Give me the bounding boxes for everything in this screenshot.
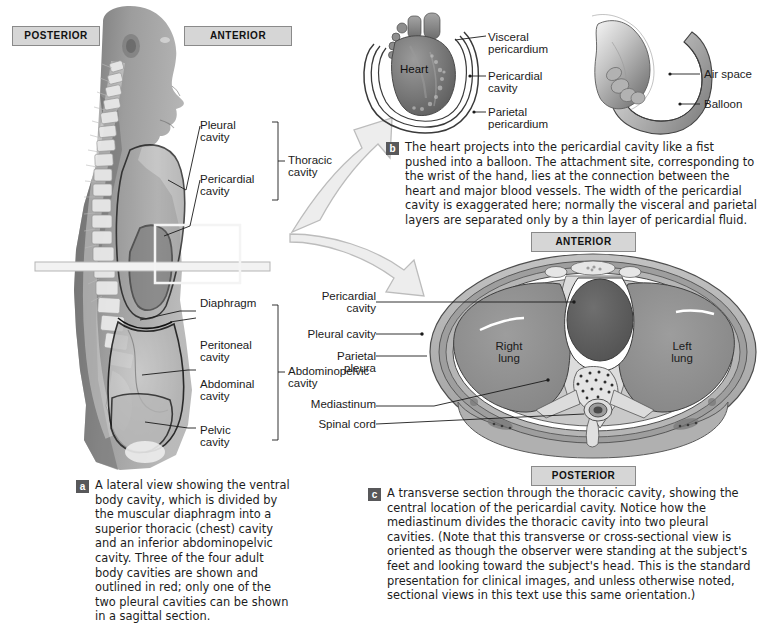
label-pelvic-cavity-line2: cavity [200, 436, 229, 449]
label-pericardial-cavity-b-line2: cavity [488, 82, 517, 95]
label-pericardial-cavity-line1: Pericardial [200, 173, 254, 186]
panel-a-caption-text: A lateral view showing the ventral body … [95, 478, 290, 624]
label-mediastinum: Mediastinum [256, 398, 376, 411]
panel-c-transverse-illustration [428, 252, 758, 464]
label-parietal-pleura-line2: pleura [286, 362, 376, 375]
label-left-lung-line1: Left [660, 340, 704, 353]
label-visceral-pericardium-line1: Visceral [488, 31, 529, 44]
thoracic-bracket [272, 122, 278, 200]
panel-b-caption-block: b The heart projects into the pericardia… [386, 140, 758, 228]
label-left-lung-line2: lung [660, 352, 704, 365]
label-peritoneal-cavity-line2: cavity [200, 351, 229, 364]
orientation-posterior-panel-c: POSTERIOR [531, 466, 636, 486]
label-abdominopelvic-cavity-line2: cavity [288, 377, 317, 390]
label-pelvic-cavity-line1: Pelvic [200, 424, 231, 437]
label-pericardial-cavity-b-line1: Pericardial [488, 70, 542, 83]
panel-c-caption-text: A transverse section through the thoraci… [387, 486, 758, 603]
panel-c-caption-block: c A transverse section through the thora… [368, 486, 758, 603]
label-visceral-pericardium-line2: pericardium [488, 43, 548, 56]
panel-b-badge: b [386, 142, 399, 155]
label-pericardial-cavity-line2: cavity [200, 185, 229, 198]
label-parietal-pleura-line1: Parietal [286, 350, 376, 363]
label-abdominal-cavity-line1: Abdominal [200, 378, 254, 391]
arrow-to-panel-c [290, 234, 424, 296]
orientation-posterior-panel-a: POSTERIOR [12, 26, 100, 46]
label-pleural-cavity-line1: Pleural [200, 119, 236, 132]
panel-a-caption-block: a A lateral view showing the ventral bod… [76, 478, 290, 624]
label-peritoneal-cavity-line1: Peritoneal [200, 339, 252, 352]
label-right-lung-line2: lung [482, 352, 536, 365]
label-parietal-pericardium-line2: pericardium [488, 118, 548, 131]
panel-b-caption-text: The heart projects into the pericardial … [405, 140, 758, 228]
label-right-lung-line1: Right [482, 340, 536, 353]
label-balloon: Balloon [704, 98, 742, 111]
label-pleural-cavity-line2: cavity [200, 131, 229, 144]
label-pleural-cavity-c: Pleural cavity [256, 328, 376, 341]
panel-a-badge: a [76, 480, 89, 493]
label-air-space: Air space [704, 68, 752, 81]
orientation-anterior-panel-a: ANTERIOR [184, 26, 292, 46]
label-abdominal-cavity-line2: cavity [200, 390, 229, 403]
label-heart: Heart [400, 63, 428, 76]
label-spinal-cord: Spinal cord [256, 418, 376, 431]
orientation-anterior-panel-c: ANTERIOR [531, 232, 636, 252]
label-pericardial-cavity-c-line1: Pericardial [286, 290, 376, 303]
panel-c-badge: c [368, 488, 381, 501]
label-parietal-pericardium-line1: Parietal [488, 106, 527, 119]
transverse-section-plane [35, 262, 270, 271]
label-pericardial-cavity-c-line2: cavity [286, 302, 376, 315]
label-diaphragm: Diaphragm [200, 297, 256, 310]
